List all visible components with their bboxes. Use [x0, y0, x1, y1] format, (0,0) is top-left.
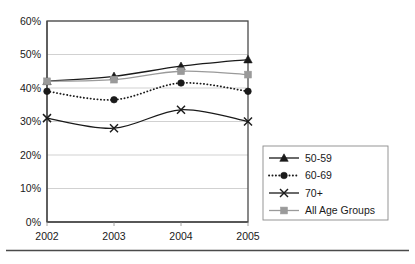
y-tick-label: 30%: [20, 115, 41, 127]
x-tick-label: 2005: [236, 230, 260, 242]
gridlines: [47, 21, 248, 222]
line-chart: 0%10%20%30%40%50%60% 2002200320042005 50…: [0, 0, 415, 264]
data-point-triangle: [244, 55, 252, 63]
series-line: [47, 110, 248, 129]
x-tick-label: 2002: [35, 230, 59, 242]
series-60-69: [44, 80, 252, 103]
data-point-square: [44, 78, 51, 85]
legend-label: 60-69: [305, 169, 332, 181]
data-point-circle: [111, 96, 118, 103]
legend-label: 50-59: [305, 152, 332, 164]
legend-label: All Age Groups: [305, 204, 375, 216]
data-series-group: [43, 55, 252, 132]
x-axis-tick-labels: 2002200320042005: [35, 230, 260, 242]
x-tick-label: 2003: [102, 230, 126, 242]
y-tick-label: 0%: [26, 216, 41, 228]
y-tick-label: 60%: [20, 15, 41, 27]
series-line: [47, 60, 248, 82]
series-all-age-groups: [44, 68, 252, 85]
y-tick-label: 40%: [20, 82, 41, 94]
y-tick-label: 20%: [20, 149, 41, 161]
series-line: [47, 83, 248, 100]
x-tick-label: 2004: [169, 230, 193, 242]
data-point-square: [281, 207, 288, 214]
chart-canvas: 0%10%20%30%40%50%60% 2002200320042005 50…: [0, 0, 415, 264]
data-point-circle: [281, 172, 288, 179]
data-point-square: [178, 68, 185, 75]
data-point-square: [111, 76, 118, 83]
series-70-: [43, 106, 252, 132]
data-point-circle: [178, 80, 185, 87]
legend-label: 70+: [305, 187, 323, 199]
y-tick-label: 10%: [20, 182, 41, 194]
data-point-circle: [245, 88, 252, 95]
y-tick-label: 50%: [20, 48, 41, 60]
series-50-59: [43, 55, 252, 84]
data-point-square: [245, 71, 252, 78]
y-axis-tick-labels: 0%10%20%30%40%50%60%: [20, 15, 41, 228]
data-point-circle: [44, 88, 51, 95]
